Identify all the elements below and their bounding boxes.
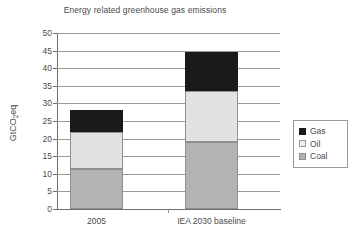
x-tick-mark bbox=[168, 209, 169, 213]
y-tick-label: 45 bbox=[43, 46, 52, 55]
y-axis-title-suffix: eq bbox=[8, 105, 18, 115]
y-tick-label: 5 bbox=[47, 187, 52, 196]
chart-legend: GasOilCoal bbox=[293, 120, 348, 168]
bar-segment-oil[interactable] bbox=[185, 91, 238, 142]
y-tick-label: 50 bbox=[43, 29, 52, 38]
y-tick-mark bbox=[53, 209, 57, 210]
y-tick-label: 25 bbox=[43, 117, 52, 126]
y-tick-label: 30 bbox=[43, 99, 52, 108]
x-axis-line bbox=[57, 209, 281, 210]
stacked-bar[interactable] bbox=[70, 33, 123, 209]
legend-label: Coal bbox=[310, 152, 327, 161]
x-tick-label: 2005 bbox=[37, 216, 157, 226]
y-tick-label: 20 bbox=[43, 134, 52, 143]
legend-item-coal[interactable]: Coal bbox=[299, 152, 343, 161]
legend-swatch-gas-icon bbox=[299, 128, 306, 135]
bar-segment-gas[interactable] bbox=[70, 110, 123, 132]
chart-title: Energy related greenhouse gas emissions bbox=[0, 5, 290, 15]
chart-figure: Energy related greenhouse gas emissions … bbox=[0, 0, 355, 240]
y-axis-title-text: GtCO bbox=[8, 118, 18, 141]
stacked-bar[interactable] bbox=[185, 33, 238, 209]
legend-label: Gas bbox=[310, 127, 326, 136]
x-tick-label: IEA 2030 baseline bbox=[152, 216, 272, 226]
y-tick-label: 35 bbox=[43, 82, 52, 91]
y-tick-label: 40 bbox=[43, 64, 52, 73]
legend-label: Oil bbox=[310, 140, 320, 149]
legend-item-gas[interactable]: Gas bbox=[299, 127, 343, 136]
legend-swatch-coal-icon bbox=[299, 153, 306, 160]
y-axis-title: GtCO2eq bbox=[6, 88, 20, 158]
legend-item-oil[interactable]: Oil bbox=[299, 140, 343, 149]
bar-segment-coal[interactable] bbox=[70, 169, 123, 209]
plot-area bbox=[57, 33, 280, 209]
bar-segment-coal[interactable] bbox=[185, 142, 238, 209]
y-tick-label: 10 bbox=[43, 170, 52, 179]
y-tick-label: 15 bbox=[43, 152, 52, 161]
y-axis-title-subscript: 2 bbox=[12, 115, 19, 119]
bar-segment-oil[interactable] bbox=[70, 132, 123, 169]
legend-swatch-oil-icon bbox=[299, 140, 306, 147]
bar-segment-gas[interactable] bbox=[185, 52, 238, 91]
y-tick-label: 0 bbox=[47, 205, 52, 214]
